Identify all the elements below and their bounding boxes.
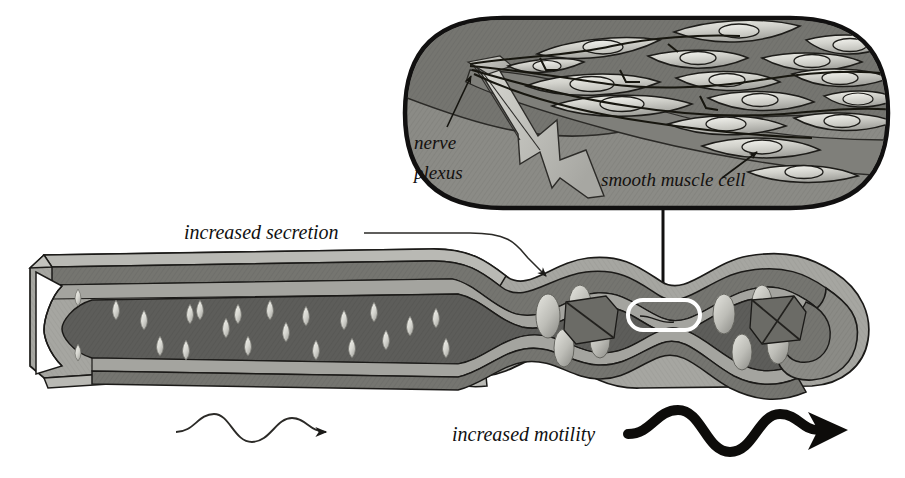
nerve-plexus-label-line2: plexus [412, 162, 463, 183]
increased-secretion-label: increased secretion [184, 221, 339, 243]
muscle-nucleus [680, 52, 716, 65]
smooth-muscle-cell-label: smooth muscle cell [601, 169, 746, 190]
muscle-nucleus [600, 97, 644, 112]
muscle-nucleus [742, 140, 782, 154]
bolus [713, 294, 735, 334]
gut-tube [30, 249, 869, 399]
muscle-nucleus [785, 166, 823, 179]
muscle-nucleus [742, 94, 778, 107]
nerve-plexus-label-line1: nerve [414, 132, 456, 153]
bolus [732, 334, 752, 370]
muscle-nucleus [824, 115, 860, 128]
bold-wave-arrow [628, 410, 848, 452]
thin-wave-arrow [176, 414, 326, 442]
figure-canvas: nerve plexus smooth muscle cell [0, 0, 905, 478]
gut-wall-diagram: nerve plexus smooth muscle cell [0, 0, 905, 478]
increased-motility-label: increased motility [452, 423, 595, 446]
inset-detail-panel: nerve plexus smooth muscle cell [405, 18, 896, 208]
muscle-nucleus [843, 93, 873, 105]
bolus [536, 294, 560, 338]
muscle-nucleus [794, 55, 830, 68]
muscle-nucleus [706, 117, 746, 131]
